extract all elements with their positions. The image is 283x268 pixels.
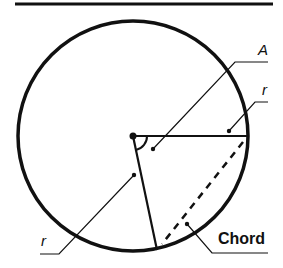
angle-arc xyxy=(136,136,147,150)
radius-lower xyxy=(133,136,157,250)
radius-bottom-label: r xyxy=(41,232,47,249)
angle-label: A xyxy=(257,41,268,58)
circle-chord-diagram: A r r Chord xyxy=(0,0,283,268)
chord-label: Chord xyxy=(218,230,265,247)
radius-top-label: r xyxy=(262,81,268,98)
center-point xyxy=(130,133,137,140)
